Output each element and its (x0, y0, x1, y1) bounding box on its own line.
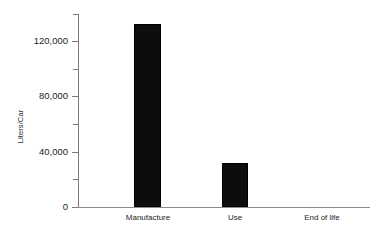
y-axis-line (78, 14, 79, 208)
y-tick-80000 (72, 96, 78, 97)
bar-manufacture (134, 24, 161, 207)
category-label-end-of-life: End of life (281, 213, 363, 223)
y-tick-label-120000: 120,000 (0, 36, 68, 46)
bar-end-of-life (309, 206, 335, 207)
y-tick-minor-20000 (73, 179, 78, 180)
bar-use (222, 163, 248, 207)
y-tick-label-40000: 40,000 (0, 147, 68, 157)
category-label-use: Use (194, 213, 276, 223)
y-tick-label-80000: 80,000 (0, 91, 68, 101)
y-tick-0 (72, 207, 78, 208)
y-tick-minor-60000 (73, 124, 78, 125)
category-label-manufacture: Manufacture (107, 213, 189, 223)
y-tick-minor-140000 (73, 14, 78, 15)
y-tick-120000 (72, 41, 78, 42)
y-axis-title-text: Liters/Car (17, 109, 26, 143)
bar-chart: Liters/Car 0 40,000 80,000 120,000 Manuf… (0, 0, 378, 244)
y-tick-40000 (72, 152, 78, 153)
y-tick-label-0: 0 (0, 202, 68, 212)
y-tick-minor-100000 (73, 69, 78, 70)
x-axis-line (78, 207, 370, 208)
